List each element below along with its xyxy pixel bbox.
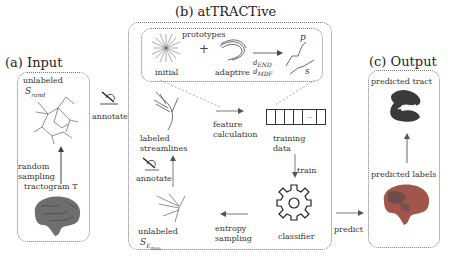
- p-label: p: [300, 32, 306, 42]
- zoom-lines: [160, 80, 320, 110]
- distance-arrow: [253, 50, 283, 56]
- annotate-pen-icon: [98, 88, 120, 106]
- input-panel-title: (a) Input: [5, 55, 62, 70]
- entropy-sampling-arrow: [220, 211, 248, 217]
- d-mdf-label: dMDF: [253, 67, 273, 79]
- prototype-streamline-p: [284, 36, 318, 76]
- annotate-up-arrow: [170, 155, 176, 187]
- feature-calculation-arrow: [216, 108, 244, 114]
- attractive-panel-title: (b) atTRACTive: [175, 4, 276, 19]
- training-data-label: trainingdata: [273, 134, 305, 154]
- predicted-labels-brain-image: [378, 183, 433, 227]
- random-streamlines-image: [28, 92, 83, 147]
- adaptive-prototypes-image: [218, 38, 248, 64]
- unlabeled-emax-label: unlabeled: [138, 227, 178, 237]
- unlabeled-emax-streamlines-image: [155, 192, 187, 226]
- semax-symbol: SEmax: [140, 237, 161, 253]
- train-label: train: [297, 166, 317, 176]
- output-panel-title: (c) Output: [369, 54, 437, 69]
- plus-sign: +: [199, 42, 209, 56]
- tractogram-label: tractogram T: [24, 182, 78, 192]
- training-data-table: ...: [266, 109, 326, 125]
- annotate-inner-label: annotate: [136, 174, 172, 184]
- classifier-label: classifier: [278, 232, 314, 242]
- gear-icon: [275, 183, 313, 221]
- initial-prototypes-image: [150, 32, 182, 64]
- initial-label: initial: [155, 68, 178, 78]
- predict-arrow: [336, 210, 364, 216]
- tractogram-brain-image: [29, 195, 84, 237]
- labeled-streamlines-image: [152, 90, 182, 132]
- predicted-labels-label: predicted labels: [371, 170, 436, 180]
- adaptive-label: adaptive: [215, 68, 250, 78]
- predicted-tract-label: predicted tract: [371, 77, 432, 87]
- predicted-up-arrow: [404, 133, 410, 163]
- labeled-streamlines-label: labeledstreamlines: [140, 134, 187, 154]
- random-sampling-label: randomsampling: [18, 162, 55, 182]
- entropy-sampling-label: entropysampling: [215, 224, 252, 244]
- annotate-connector-label: annotate: [92, 112, 128, 122]
- input-unlabeled-label: unlabeled: [23, 76, 63, 86]
- random-sampling-arrow: [58, 146, 64, 186]
- predict-label: predict: [334, 225, 363, 235]
- predicted-tract-image: [386, 89, 426, 123]
- s-label: s: [305, 66, 310, 76]
- feature-calculation-label: featurecalculation: [213, 120, 258, 140]
- annotate-inner-pen-icon: [141, 156, 161, 172]
